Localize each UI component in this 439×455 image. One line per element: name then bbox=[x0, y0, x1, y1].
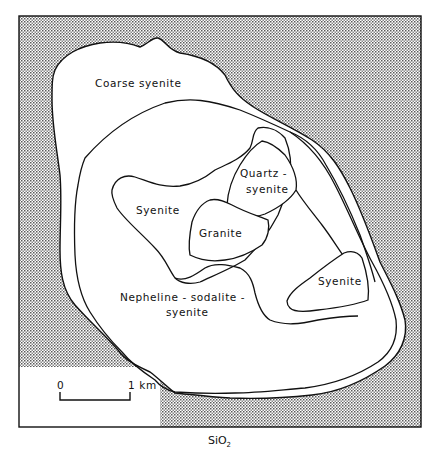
caption-text: SiO bbox=[208, 434, 227, 447]
label-granite: Granite bbox=[199, 227, 242, 239]
geologic-map: Coarse syenite Syenite Quartz - syenite … bbox=[0, 0, 439, 455]
scale-end-label: 1 km bbox=[128, 379, 157, 391]
scale-box bbox=[19, 367, 160, 427]
label-quartz-syenite-2: syenite bbox=[246, 183, 289, 195]
label-nepheline-sodalite-1: Nepheline - sodalite - bbox=[120, 291, 245, 303]
label-syenite-west: Syenite bbox=[136, 204, 180, 216]
caption-subscript: 2 bbox=[227, 441, 231, 449]
label-nepheline-sodalite-2: syenite bbox=[166, 306, 209, 318]
label-syenite-east: Syenite bbox=[318, 275, 362, 287]
scale-start-label: 0 bbox=[57, 379, 64, 391]
label-coarse-syenite: Coarse syenite bbox=[95, 77, 181, 89]
figure-caption: SiO2 bbox=[0, 434, 439, 449]
label-quartz-syenite-1: Quartz - bbox=[240, 167, 287, 179]
